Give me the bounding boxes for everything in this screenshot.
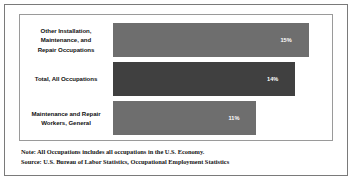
plot-area: Other Installation, Maintenance, and Rep…: [19, 14, 333, 141]
bar-track: 14%: [113, 60, 328, 98]
category-label: Total, All Occupations: [22, 60, 110, 98]
footnote-source: Source: U.S. Bureau of Labor Statistics,…: [21, 157, 341, 167]
bar-track: 11%: [113, 99, 328, 137]
category-label: Maintenance and Repair Workers, General: [22, 99, 110, 137]
chart-figure: Other Installation, Maintenance, and Rep…: [0, 0, 354, 182]
bar: 14%: [113, 62, 295, 96]
bar-row: Other Installation, Maintenance, and Rep…: [20, 21, 332, 59]
category-label-line: Total, All Occupations: [35, 74, 98, 83]
category-label: Other Installation, Maintenance, and Rep…: [22, 21, 110, 59]
category-label-line: Other Installation,: [38, 26, 95, 35]
bar: 15%: [113, 23, 309, 57]
category-label-line: Repair Occupations: [38, 45, 95, 54]
bar: 11%: [113, 101, 256, 135]
bar-track: 15%: [113, 21, 328, 59]
footnotes: Note: All Occupations includes all occup…: [21, 147, 341, 166]
figure-outer-border: Other Installation, Maintenance, and Rep…: [4, 4, 348, 176]
bar-value-label: 14%: [267, 76, 295, 82]
category-label-line: Maintenance and Repair: [32, 109, 101, 118]
category-label-line: Workers, General: [32, 118, 101, 127]
category-label-line: Maintenance, and: [38, 35, 95, 44]
bar-value-label: 11%: [229, 115, 257, 121]
footnote-note: Note: All Occupations includes all occup…: [21, 147, 341, 157]
bar-value-label: 15%: [280, 37, 308, 43]
bar-row: Maintenance and Repair Workers, General …: [20, 99, 332, 137]
bar-row: Total, All Occupations 14%: [20, 60, 332, 98]
